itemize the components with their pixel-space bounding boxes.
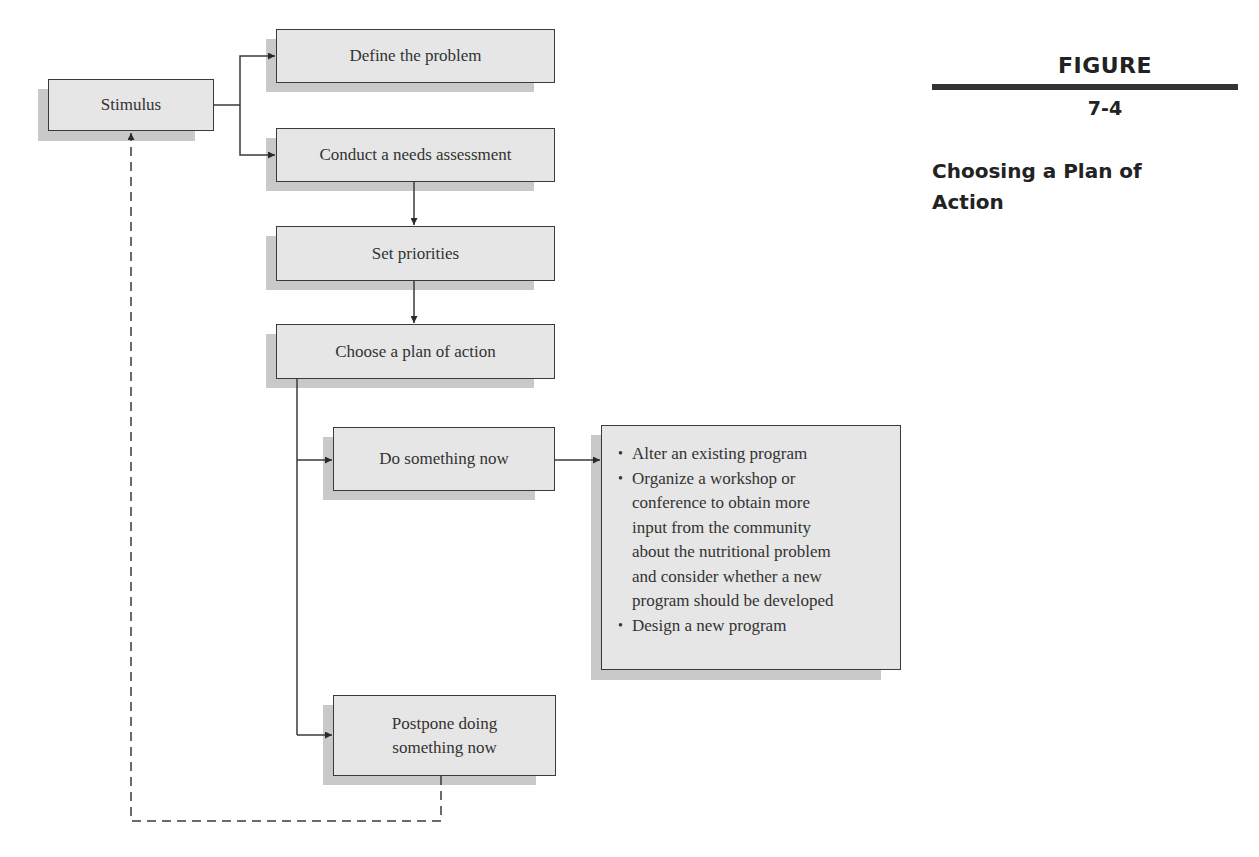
node-postpone-label-line1: Postpone doing (392, 712, 497, 736)
figure-number: 7-4 (1070, 97, 1140, 119)
node-do-something: Do something now (333, 427, 555, 491)
option-item: Organize a workshop or conference to obt… (618, 467, 886, 614)
node-set-priorities: Set priorities (276, 226, 555, 281)
node-choose-plan: Choose a plan of action (276, 324, 555, 379)
option-item-line: about the nutritional problem (632, 542, 831, 561)
options-list: Alter an existing program Organize a wor… (618, 442, 886, 638)
option-item: Design a new program (618, 614, 886, 639)
node-stimulus-label: Stimulus (101, 93, 161, 117)
node-needs-assessment: Conduct a needs assessment (276, 128, 555, 182)
node-options: Alter an existing program Organize a wor… (601, 425, 901, 670)
node-choose-plan-label: Choose a plan of action (335, 340, 496, 364)
option-item-text: Design a new program (632, 616, 786, 635)
node-needs-assessment-label: Conduct a needs assessment (319, 143, 511, 167)
figure-title-line1: Choosing a Plan of (932, 159, 1142, 183)
option-item-line: and consider whether a new (632, 567, 822, 586)
option-item: Alter an existing program (618, 442, 886, 467)
node-do-something-label: Do something now (379, 447, 508, 471)
node-postpone: Postpone doing something now (333, 695, 556, 776)
node-set-priorities-label: Set priorities (372, 242, 459, 266)
option-item-line: conference to obtain more (632, 493, 810, 512)
node-define-problem: Define the problem (276, 29, 555, 83)
option-item-line: input from the community (632, 518, 811, 537)
option-item-text: Alter an existing program (632, 444, 807, 463)
node-stimulus: Stimulus (48, 79, 214, 131)
node-define-problem-label: Define the problem (349, 44, 481, 68)
option-item-line: Organize a workshop or (632, 469, 796, 488)
figure-title-line2: Action (932, 190, 1004, 214)
figure-label: FIGURE (1050, 53, 1160, 78)
figure-divider (932, 84, 1238, 90)
node-postpone-label-line2: something now (392, 736, 496, 760)
option-item-line: program should be developed (632, 591, 834, 610)
